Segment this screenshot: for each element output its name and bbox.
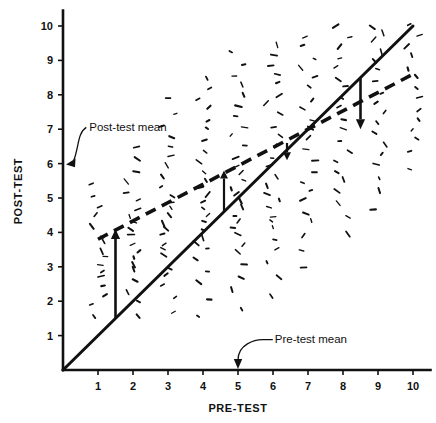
data-point	[133, 279, 138, 281]
data-point	[239, 276, 244, 278]
data-point	[383, 110, 385, 113]
data-point	[193, 257, 197, 260]
data-point	[91, 196, 94, 197]
data-point	[98, 276, 104, 278]
data-point	[234, 192, 239, 196]
data-point	[129, 215, 130, 219]
scatter-plot-canvas: 1234567891012345678910 PRE-TEST POST-TES…	[0, 0, 436, 423]
data-point	[299, 65, 303, 70]
y-tick-label: 7	[47, 123, 53, 135]
data-point	[276, 42, 278, 47]
data-point	[202, 207, 205, 209]
data-point	[380, 93, 383, 94]
data-point	[241, 308, 243, 311]
y-tick-label: 10	[41, 20, 53, 32]
data-point	[270, 294, 273, 298]
data-point	[174, 296, 177, 298]
data-point	[277, 275, 282, 279]
data-point	[267, 206, 272, 207]
data-point	[196, 160, 201, 164]
data-point	[168, 155, 174, 156]
data-point	[93, 315, 95, 318]
data-point	[241, 205, 243, 210]
data-point	[174, 113, 177, 114]
data-point	[137, 301, 140, 303]
y-tick-label: 2	[47, 295, 53, 307]
data-point	[168, 146, 172, 147]
data-point	[278, 134, 282, 137]
data-point	[380, 49, 382, 55]
data-point	[98, 265, 104, 266]
shift-arrow-head	[283, 152, 291, 160]
data-point	[373, 163, 379, 165]
data-point	[208, 88, 211, 90]
data-point	[336, 201, 340, 206]
post-test-mean-annotation: Post-test mean	[66, 121, 167, 167]
y-tick-label: 8	[47, 89, 53, 101]
data-point	[264, 101, 269, 106]
data-point	[196, 98, 200, 100]
pre-test-mean-leader-line	[238, 340, 273, 360]
data-point	[264, 193, 270, 195]
pre-test-mean-arrowhead	[234, 359, 242, 369]
data-point	[161, 248, 166, 250]
data-point	[337, 106, 341, 108]
y-axis-title: POST-TEST	[12, 158, 24, 225]
data-point	[408, 151, 412, 152]
data-point	[379, 177, 380, 179]
data-point	[135, 157, 140, 161]
data-point	[408, 169, 412, 170]
data-point	[233, 157, 239, 160]
data-point	[172, 311, 176, 313]
data-point	[203, 150, 206, 153]
data-point	[268, 65, 274, 66]
data-point	[234, 116, 238, 117]
data-point	[162, 221, 164, 227]
data-point	[136, 199, 140, 201]
data-point	[303, 36, 308, 38]
data-point	[372, 131, 376, 133]
data-point	[272, 226, 273, 229]
data-point	[348, 37, 352, 38]
y-tick-label: 9	[47, 54, 53, 66]
data-point	[207, 120, 210, 122]
data-point	[376, 121, 378, 124]
data-point	[89, 183, 93, 185]
data-point	[310, 120, 314, 121]
data-point	[382, 30, 384, 36]
data-point	[231, 287, 233, 292]
data-point	[102, 239, 104, 243]
data-point	[276, 94, 282, 98]
data-point	[206, 192, 210, 197]
data-point	[333, 24, 339, 27]
x-tick-label: 4	[200, 380, 207, 392]
y-tick-label: 3	[47, 261, 53, 273]
data-point	[137, 314, 140, 317]
data-point	[94, 213, 97, 217]
data-point	[411, 129, 413, 131]
data-point	[301, 45, 305, 46]
data-point	[300, 107, 305, 110]
data-point	[370, 26, 375, 30]
data-point	[303, 149, 309, 150]
data-point	[404, 44, 409, 49]
data-point	[273, 239, 277, 240]
post-test-mean-leader-line	[74, 127, 87, 161]
data-point	[241, 82, 243, 87]
data-point	[206, 127, 208, 129]
data-point	[230, 134, 232, 136]
data-point	[270, 217, 275, 218]
data-point	[346, 231, 350, 236]
y-tick-label: 1	[47, 330, 53, 342]
regression-to-mean-figure: 1234567891012345678910 PRE-TEST POST-TES…	[0, 0, 436, 423]
data-point	[309, 190, 312, 191]
data-point	[97, 206, 102, 208]
data-point	[415, 75, 418, 78]
x-axis-title: PRE-TEST	[208, 402, 267, 414]
data-point	[206, 77, 208, 80]
data-point	[313, 58, 315, 59]
data-point	[126, 290, 128, 295]
regression-line	[98, 74, 413, 239]
data-point	[341, 119, 346, 120]
data-point	[336, 78, 341, 82]
